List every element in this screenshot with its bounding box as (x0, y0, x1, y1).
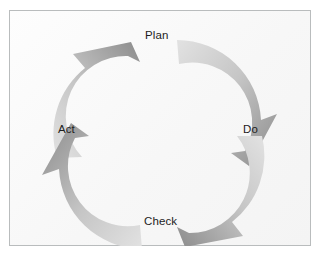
node-label-plan: Plan (145, 30, 168, 42)
node-label-do: Do (243, 124, 258, 136)
diagram-canvas: Plan Do Check Act (0, 0, 327, 265)
pdca-cycle-graphic (9, 10, 311, 246)
node-label-check: Check (144, 216, 177, 228)
arrow-do-to-check (177, 136, 264, 246)
node-label-act: Act (58, 124, 75, 136)
